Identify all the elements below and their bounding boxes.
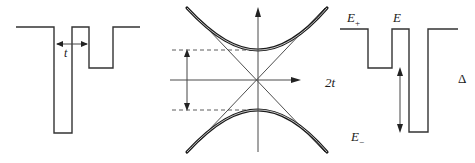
- avoided-crossing-panel: E+ E E− Δ 2t: [155, 0, 330, 163]
- figure-container: t: [0, 0, 475, 163]
- left-well-profile: [16, 27, 140, 133]
- right-potential-panel: 2Δ: [330, 0, 475, 163]
- left-potential-panel: t: [0, 0, 155, 163]
- right-well-profile: [340, 29, 458, 132]
- lower-branch-curve: [187, 110, 327, 152]
- energy-offset-arrow: [397, 67, 403, 133]
- left-potential-svg: [0, 0, 155, 163]
- right-potential-svg: [330, 0, 475, 163]
- detuning-axis: [170, 77, 301, 83]
- avoided-crossing-svg: [155, 0, 330, 163]
- barrier-width-label: t: [64, 47, 67, 59]
